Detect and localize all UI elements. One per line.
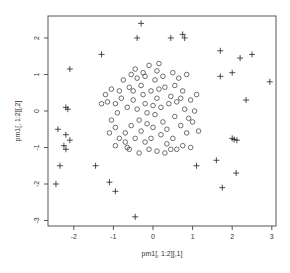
data-point-circle [109, 118, 114, 123]
data-point-cross [132, 214, 138, 220]
data-point-cross [134, 35, 140, 41]
data-point-circle [155, 69, 160, 74]
data-point-circle [123, 140, 128, 145]
data-point-circle [131, 98, 136, 103]
data-point-circle [180, 89, 185, 94]
x-tick-label: 1 [191, 233, 195, 240]
data-point-circle [129, 123, 134, 128]
data-point-circle [139, 83, 144, 88]
data-point-circle [161, 120, 166, 125]
plot-frame [48, 16, 276, 226]
y-tick-label: -3 [33, 217, 40, 223]
data-point-circle [139, 129, 144, 134]
data-point-circle [113, 143, 118, 148]
data-point-circle [131, 89, 136, 94]
data-point-cross [53, 181, 59, 187]
y-tick-label: -2 [33, 181, 40, 187]
data-point-circle [135, 107, 140, 112]
data-point-cross [57, 163, 63, 169]
data-point-circle [192, 109, 197, 114]
data-point-circle [141, 70, 146, 75]
data-point-circle [105, 100, 110, 105]
data-point-cross [217, 48, 223, 54]
y-tick-label: 1 [33, 72, 40, 76]
x-axis: -2-10123 [71, 226, 274, 240]
data-point-circle [161, 74, 166, 79]
data-point-circle [165, 142, 170, 147]
data-point-circle [135, 76, 140, 81]
data-point-circle [184, 131, 189, 136]
data-point-circle [151, 125, 156, 130]
data-point-cross [67, 66, 73, 72]
x-tick-label: -1 [110, 233, 116, 240]
data-point-cross [138, 20, 144, 26]
data-point-circle [133, 67, 138, 72]
data-point-circle [155, 96, 160, 101]
data-point-circle [182, 107, 187, 112]
data-point-circle [127, 85, 132, 90]
data-point-circle [171, 136, 176, 141]
data-point-circle [186, 116, 191, 121]
data-point-circle [147, 63, 152, 68]
x-tick-label: -2 [71, 233, 77, 240]
data-point-circle [147, 147, 152, 152]
data-point-circle [196, 129, 201, 134]
x-tick-label: 0 [151, 233, 155, 240]
data-point-cross [55, 126, 61, 132]
data-point-circle [149, 89, 154, 94]
data-point-cross [243, 97, 249, 103]
data-point-circle [184, 72, 189, 77]
data-point-circle [143, 140, 148, 145]
data-point-circle [153, 78, 158, 83]
data-point-circle [119, 96, 124, 101]
data-point-circle [155, 149, 160, 154]
data-point-circle [157, 61, 162, 66]
data-point-circle [188, 98, 193, 103]
data-point-cross [112, 188, 118, 194]
data-point-circle [169, 147, 174, 152]
data-point-circle [163, 151, 168, 156]
x-tick-label: 3 [270, 233, 274, 240]
data-point-circle [117, 89, 122, 94]
y-tick-label: -1 [33, 144, 40, 150]
data-point-circle [113, 125, 118, 130]
x-axis-title: pm1[, 1:2][,1] [142, 250, 183, 258]
data-point-circle [163, 85, 168, 90]
data-point-cross [249, 51, 255, 57]
data-point-circle [129, 72, 134, 77]
data-point-circle [103, 92, 108, 97]
data-point-circle [165, 127, 170, 132]
data-point-circle [171, 70, 176, 75]
y-axis-title: pm1[, 1:2][,2] [14, 101, 22, 142]
data-point-circle [137, 118, 142, 123]
y-axis: -3-2-1012 [33, 36, 48, 224]
data-point-circle [169, 94, 174, 99]
data-point-circle [99, 101, 104, 106]
data-point-circle [113, 101, 118, 106]
y-tick-label: 2 [33, 36, 40, 40]
data-point-circle [145, 111, 150, 116]
data-point-circle [121, 78, 126, 83]
data-point-circle [123, 131, 128, 136]
data-point-circle [145, 121, 150, 126]
data-point-circle [133, 136, 138, 141]
data-point-circle [180, 143, 185, 148]
data-point-circle [109, 87, 114, 92]
data-point-circle [174, 147, 179, 152]
data-point-cross [267, 79, 273, 85]
data-point-circle [190, 120, 195, 125]
data-point-cross [168, 35, 174, 41]
data-point-circle [153, 112, 158, 117]
data-point-cross [99, 51, 105, 57]
data-point-circle [149, 136, 154, 141]
data-point-cross [217, 73, 223, 79]
data-point-cross [237, 55, 243, 61]
data-point-circle [174, 100, 179, 105]
data-point-circle [159, 105, 164, 110]
data-point-cross [106, 179, 112, 185]
data-point-circle [167, 101, 172, 106]
data-point-circle [137, 151, 142, 156]
data-point-circle [151, 103, 156, 108]
data-point-circle [172, 83, 177, 88]
data-point-cross [194, 163, 200, 169]
